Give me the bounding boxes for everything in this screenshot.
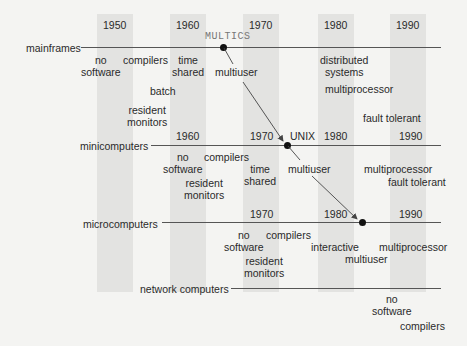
os-evolution-diagram: 1950 1960 1970 1980 1990 mainframes MULT… — [0, 0, 467, 346]
migration-arrows — [0, 0, 467, 346]
